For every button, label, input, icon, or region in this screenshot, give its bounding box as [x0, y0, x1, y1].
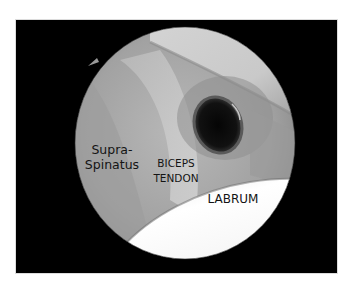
biceps-tendon-label: BICEPS TENDON [150, 156, 202, 186]
supraspinatus-label-line2: Spinatus [84, 157, 140, 172]
labrum-label: LABRUM [206, 192, 260, 206]
biceps-tendon-label-line1: BICEPS [150, 156, 202, 171]
supraspinatus-label: Supra- Spinatus [84, 142, 140, 172]
supraspinatus-label-line1: Supra- [84, 142, 140, 157]
biceps-tendon-label-line2: TENDON [150, 171, 202, 186]
arthroscopic-scope-view [0, 0, 356, 286]
